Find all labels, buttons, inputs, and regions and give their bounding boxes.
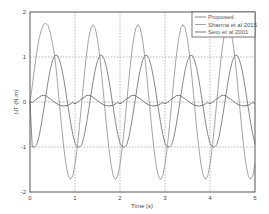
x-tick-label: 5 <box>253 195 257 201</box>
x-tick-label: 3 <box>163 195 167 201</box>
y-tick-label: -2 <box>21 189 27 195</box>
y-tick-label: 1 <box>23 54 27 60</box>
y-axis-label: UT (N.m) <box>13 90 19 115</box>
y-tick-label: -1 <box>21 144 27 150</box>
legend-label-sharma: Sharma et al 2015 <box>208 22 258 28</box>
legend-label-seto: Seto et al 2001 <box>208 29 249 35</box>
line-chart: 2 1 0 -1 -2 0 1 2 3 4 5 Time (s) UT (N.m… <box>0 0 269 214</box>
y-tick-label: 0 <box>23 99 27 105</box>
legend: Proposed Sharma et al 2015 Seto et al 20… <box>192 12 258 37</box>
x-tick-label: 0 <box>28 195 32 201</box>
x-tick-label: 1 <box>73 195 77 201</box>
y-tick-label: 2 <box>23 9 27 15</box>
x-axis-label: Time (s) <box>131 203 153 209</box>
legend-label-proposed: Proposed <box>208 14 234 20</box>
x-tick-label: 4 <box>208 195 212 201</box>
x-tick-label: 2 <box>118 195 122 201</box>
